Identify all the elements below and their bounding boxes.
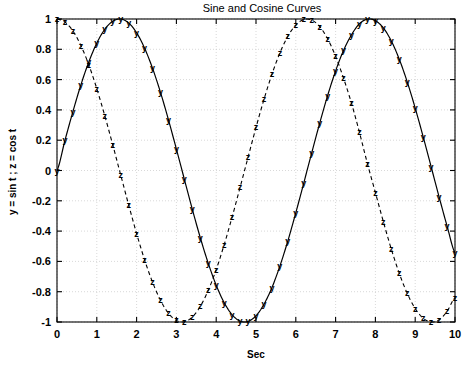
marker-y: y <box>134 28 139 38</box>
marker-z: z <box>357 127 362 137</box>
marker-y: y <box>230 310 235 320</box>
marker-z: z <box>397 268 402 278</box>
marker-y: y <box>413 103 418 113</box>
x-tick-label: 0 <box>54 328 60 340</box>
marker-y: y <box>373 16 378 26</box>
marker-y: y <box>158 87 163 97</box>
marker-y: y <box>429 162 434 172</box>
marker-z: z <box>110 140 115 150</box>
x-axis-label: Sec <box>247 349 265 360</box>
marker-y: y <box>238 316 243 326</box>
y-tick-label: 0.8 <box>36 43 51 55</box>
marker-z: z <box>63 17 68 27</box>
marker-y: y <box>126 18 131 28</box>
marker-z: z <box>134 229 139 239</box>
marker-z: z <box>437 315 442 325</box>
marker-z: z <box>317 22 322 32</box>
marker-z: z <box>118 170 123 180</box>
y-tick-label: 0.6 <box>36 74 51 86</box>
marker-y: y <box>102 24 107 34</box>
marker-z: z <box>126 200 131 210</box>
marker-y: y <box>54 166 59 176</box>
x-tick-label: 3 <box>173 328 179 340</box>
marker-y: y <box>381 23 386 33</box>
marker-z: z <box>389 244 394 254</box>
marker-y: y <box>269 283 274 293</box>
y-tick-label: -0.6 <box>32 255 51 267</box>
y-tick-label: -0.4 <box>32 225 52 237</box>
y-tick-label: 0.4 <box>36 104 52 116</box>
marker-z: z <box>254 122 259 132</box>
marker-z: z <box>222 240 227 250</box>
marker-y: y <box>421 132 426 142</box>
y-tick-label: -0.8 <box>32 286 51 298</box>
marker-y: y <box>222 298 227 308</box>
marker-y: y <box>253 311 258 321</box>
marker-z: z <box>246 152 251 162</box>
y-tick-label: -1 <box>41 316 51 328</box>
marker-z: z <box>286 31 291 41</box>
marker-z: z <box>429 317 434 327</box>
marker-y: y <box>190 204 195 214</box>
marker-y: y <box>118 14 123 24</box>
x-tick-label: 1 <box>94 328 100 340</box>
marker-z: z <box>381 217 386 227</box>
marker-z: z <box>294 20 299 30</box>
marker-z: z <box>309 15 314 25</box>
marker-y: y <box>62 135 67 145</box>
marker-y: y <box>94 38 99 48</box>
marker-y: y <box>206 258 211 268</box>
marker-y: y <box>365 14 370 24</box>
marker-z: z <box>95 84 100 94</box>
marker-y: y <box>198 233 203 243</box>
marker-y: y <box>293 208 298 218</box>
x-tick-label: 2 <box>134 328 140 340</box>
marker-z: z <box>103 111 108 121</box>
marker-y: y <box>357 19 362 29</box>
marker-z: z <box>262 94 267 104</box>
chart-title: Sine and Cosine Curves <box>203 2 322 14</box>
y-tick-label: 0 <box>45 165 51 177</box>
marker-y: y <box>349 30 354 40</box>
marker-y: y <box>70 107 75 117</box>
marker-z: z <box>373 188 378 198</box>
marker-y: y <box>341 45 346 55</box>
marker-z: z <box>445 306 450 316</box>
marker-z: z <box>453 293 458 303</box>
marker-y: y <box>325 91 330 101</box>
marker-y: y <box>437 192 442 202</box>
marker-y: y <box>317 118 322 128</box>
marker-y: y <box>182 174 187 184</box>
marker-y: y <box>405 77 410 87</box>
marker-z: z <box>182 317 187 327</box>
marker-y: y <box>110 16 115 26</box>
marker-z: z <box>365 159 370 169</box>
marker-y: y <box>452 248 457 258</box>
marker-z: z <box>55 14 60 24</box>
marker-y: y <box>285 236 290 246</box>
x-tick-label: 9 <box>412 328 418 340</box>
marker-y: y <box>389 36 394 46</box>
marker-z: z <box>405 288 410 298</box>
marker-z: z <box>302 14 307 24</box>
marker-y: y <box>214 280 219 290</box>
marker-z: z <box>421 313 426 323</box>
marker-z: z <box>349 98 354 108</box>
marker-z: z <box>142 255 147 265</box>
marker-z: z <box>341 73 346 83</box>
marker-z: z <box>71 26 76 36</box>
y-tick-label: 0.2 <box>36 134 51 146</box>
marker-y: y <box>166 115 171 125</box>
x-tick-label: 5 <box>253 328 259 340</box>
y-axis-label: y = sin t ; z = cos t <box>7 128 18 215</box>
y-tick-label: 1 <box>45 13 51 25</box>
marker-y: y <box>246 316 251 326</box>
x-tick-label: 7 <box>333 328 339 340</box>
marker-z: z <box>79 41 84 51</box>
sine-cosine-chart: Sine and Cosine Curves yyyyyyyyyyyyyyyyy… <box>0 0 467 371</box>
marker-y: y <box>174 144 179 154</box>
y-tick-label: -0.2 <box>32 195 51 207</box>
marker-z: z <box>206 285 211 295</box>
marker-y: y <box>261 299 266 309</box>
marker-z: z <box>270 69 275 79</box>
